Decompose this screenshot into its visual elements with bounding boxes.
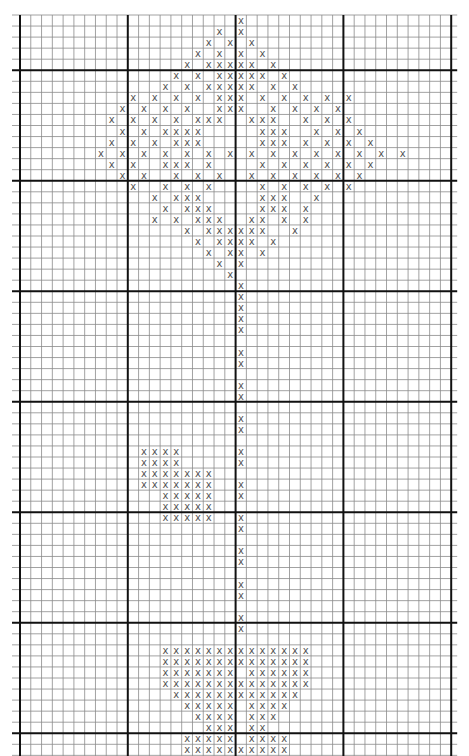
stitch-mark: x bbox=[163, 645, 169, 656]
stitch-mark: x bbox=[238, 545, 244, 556]
stitch-mark: x bbox=[281, 733, 287, 744]
stitch-mark: x bbox=[163, 81, 169, 92]
stitch-mark: x bbox=[357, 148, 363, 159]
stitch-mark: x bbox=[216, 656, 222, 667]
stitch-mark: x bbox=[324, 92, 330, 103]
stitch-mark: x bbox=[141, 126, 147, 137]
stitch-mark: x bbox=[216, 236, 222, 247]
stitch-mark: x bbox=[270, 733, 276, 744]
stitch-mark: x bbox=[216, 678, 222, 689]
stitch-mark: x bbox=[238, 59, 244, 70]
stitch-mark: x bbox=[163, 501, 169, 512]
stitch-mark: x bbox=[173, 92, 179, 103]
stitch-mark: x bbox=[238, 302, 244, 313]
stitch-mark: x bbox=[216, 103, 222, 114]
stitch-mark: x bbox=[195, 468, 201, 479]
stitch-mark: x bbox=[173, 645, 179, 656]
stitch-mark: x bbox=[195, 744, 201, 755]
stitch-mark: x bbox=[184, 744, 190, 755]
stitch-mark: x bbox=[346, 114, 352, 125]
stitch-mark: x bbox=[249, 700, 255, 711]
stitch-mark: x bbox=[195, 645, 201, 656]
stitch-mark: x bbox=[238, 523, 244, 534]
stitch-mark: x bbox=[173, 468, 179, 479]
stitch-mark: x bbox=[163, 103, 169, 114]
stitch-mark: x bbox=[195, 512, 201, 523]
stitch-mark: x bbox=[227, 148, 233, 159]
stitch-mark: x bbox=[163, 181, 169, 192]
stitch-mark: x bbox=[119, 170, 125, 181]
stitch-mark: x bbox=[238, 556, 244, 567]
stitch-mark: x bbox=[238, 81, 244, 92]
stitch-mark: x bbox=[184, 656, 190, 667]
stitch-mark: x bbox=[184, 512, 190, 523]
stitch-mark: x bbox=[260, 181, 266, 192]
stitch-mark: x bbox=[249, 148, 255, 159]
stitch-mark: x bbox=[270, 744, 276, 755]
stitch-mark: x bbox=[238, 391, 244, 402]
stitch-mark: x bbox=[260, 689, 266, 700]
section-stem: xxxxxxxxxxxxxxxxxxxxxxxxxxx bbox=[238, 280, 244, 700]
stitch-mark: x bbox=[206, 744, 212, 755]
stitch-mark: x bbox=[238, 291, 244, 302]
stitch-mark: x bbox=[173, 479, 179, 490]
stitch-mark: x bbox=[173, 457, 179, 468]
stitch-mark: x bbox=[163, 512, 169, 523]
stitch-mark: x bbox=[206, 37, 212, 48]
stitch-mark: x bbox=[184, 645, 190, 656]
stitch-mark: x bbox=[270, 711, 276, 722]
stitch-mark: x bbox=[195, 479, 201, 490]
stitch-mark: x bbox=[216, 711, 222, 722]
stitch-mark: x bbox=[227, 711, 233, 722]
stitch-mark: x bbox=[173, 170, 179, 181]
stitch-mark: x bbox=[119, 103, 125, 114]
stitch-mark: x bbox=[324, 137, 330, 148]
stitch-mark: x bbox=[109, 114, 115, 125]
stitch-mark: x bbox=[195, 126, 201, 137]
stitch-mark: x bbox=[184, 192, 190, 203]
stitch-mark: x bbox=[260, 645, 266, 656]
stitch-mark: x bbox=[249, 70, 255, 81]
stitch-mark: x bbox=[216, 114, 222, 125]
stitch-mark: x bbox=[184, 225, 190, 236]
stitch-mark: x bbox=[206, 148, 212, 159]
stitch-mark: x bbox=[303, 137, 309, 148]
stitch-mark: x bbox=[184, 203, 190, 214]
stitch-mark: x bbox=[324, 114, 330, 125]
stitch-mark: x bbox=[260, 70, 266, 81]
stitch-mark: x bbox=[173, 689, 179, 700]
stitch-mark: x bbox=[346, 137, 352, 148]
stitch-mark: x bbox=[260, 247, 266, 258]
stitch-mark: x bbox=[260, 733, 266, 744]
stitch-mark: x bbox=[281, 192, 287, 203]
stitch-mark: x bbox=[206, 645, 212, 656]
stitch-mark: x bbox=[281, 645, 287, 656]
stitch-mark: x bbox=[227, 744, 233, 755]
stitch-mark: x bbox=[270, 689, 276, 700]
stitch-mark: x bbox=[238, 413, 244, 424]
stitch-mark: x bbox=[184, 59, 190, 70]
stitch-mark: x bbox=[173, 126, 179, 137]
stitch-mark: x bbox=[270, 170, 276, 181]
stitch-mark: x bbox=[206, 722, 212, 733]
stitch-mark: x bbox=[238, 380, 244, 391]
stitch-mark: x bbox=[303, 92, 309, 103]
stitch-mark: x bbox=[98, 148, 104, 159]
stitch-mark: x bbox=[163, 126, 169, 137]
stitch-mark: x bbox=[173, 214, 179, 225]
stitch-mark: x bbox=[195, 92, 201, 103]
stitch-mark: x bbox=[227, 247, 233, 258]
stitch-mark: x bbox=[195, 203, 201, 214]
stitch-layer: xxxxxxxxxxxxxxxxxxxxxxxxxxxxxxxxxxxxxxxx… bbox=[98, 15, 406, 755]
stitch-mark: x bbox=[195, 733, 201, 744]
stitch-mark: x bbox=[270, 700, 276, 711]
stitch-mark: x bbox=[206, 114, 212, 125]
stitch-mark: x bbox=[216, 81, 222, 92]
stitch-mark: x bbox=[206, 203, 212, 214]
stitch-mark: x bbox=[238, 656, 244, 667]
stitch-mark: x bbox=[195, 236, 201, 247]
stitch-mark: x bbox=[216, 70, 222, 81]
stitch-mark: x bbox=[173, 70, 179, 81]
stitch-mark: x bbox=[238, 490, 244, 501]
stitch-mark: x bbox=[152, 457, 158, 468]
